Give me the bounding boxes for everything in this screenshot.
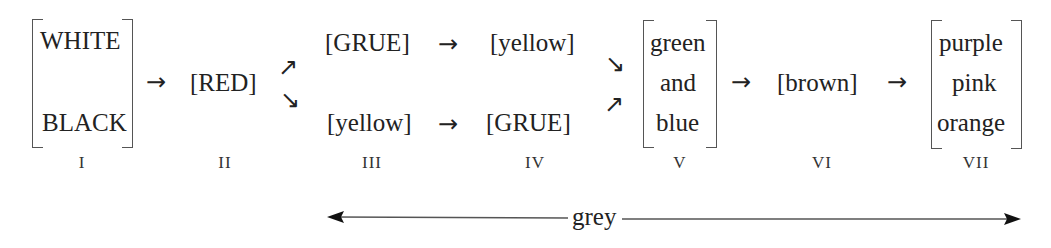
- grey-span-arrow: [0, 0, 1051, 248]
- grey-span-label: grey: [572, 204, 616, 229]
